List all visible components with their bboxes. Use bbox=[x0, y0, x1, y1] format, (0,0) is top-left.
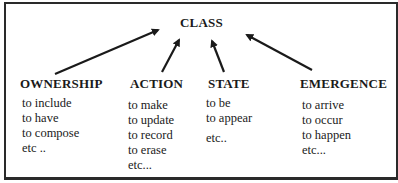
category-state: STATE bbox=[208, 76, 250, 92]
ownership-items: to include to have to compose etc .. bbox=[22, 96, 79, 156]
arrow-ownership-to-class bbox=[55, 30, 158, 74]
arrow-action-to-class bbox=[162, 40, 179, 72]
list-item: to record bbox=[128, 128, 174, 143]
list-item: to occur bbox=[302, 113, 351, 128]
list-item: to happen bbox=[302, 128, 351, 143]
category-emergence: EMERGENCE bbox=[300, 76, 387, 92]
list-item: to have bbox=[22, 111, 79, 126]
arrow-state-to-class bbox=[212, 41, 224, 72]
list-item: to appear bbox=[206, 111, 252, 126]
list-item: etc.. bbox=[206, 131, 252, 146]
list-item: to update bbox=[128, 113, 174, 128]
state-items: to be to appear etc.. bbox=[206, 96, 252, 146]
list-item: to arrive bbox=[302, 98, 351, 113]
list-item: to erase bbox=[128, 143, 174, 158]
category-action: ACTION bbox=[130, 76, 183, 92]
list-item: to include bbox=[22, 96, 79, 111]
arrow-emergence-to-class bbox=[247, 35, 312, 70]
list-item: to compose bbox=[22, 126, 79, 141]
list-item: to be bbox=[206, 96, 252, 111]
list-item: etc .. bbox=[22, 141, 79, 156]
list-item: etc... bbox=[128, 158, 174, 173]
emergence-items: to arrive to occur to happen etc... bbox=[302, 98, 351, 158]
action-items: to make to update to record to erase etc… bbox=[128, 98, 174, 173]
list-item: etc... bbox=[302, 143, 351, 158]
category-ownership: OWNERSHIP bbox=[20, 76, 103, 92]
root-node-class: CLASS bbox=[180, 15, 223, 31]
list-item: to make bbox=[128, 98, 174, 113]
